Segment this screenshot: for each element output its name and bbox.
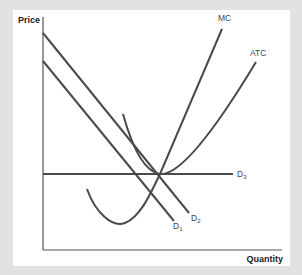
d1-curve xyxy=(43,61,174,221)
d2-curve xyxy=(43,33,189,213)
y-axis-label: Price xyxy=(18,15,40,25)
mc-label: MC xyxy=(218,13,231,23)
d2-label: D2 xyxy=(191,213,201,224)
mc-curve xyxy=(87,29,222,224)
d1-label: D1 xyxy=(173,221,183,232)
cost-curve-diagram: Price Quantity MC ATC D3 D2 D1 xyxy=(0,0,302,275)
d3-label: D3 xyxy=(237,169,247,180)
x-axis-label: Quantity xyxy=(246,254,283,264)
atc-label: ATC xyxy=(250,48,266,58)
